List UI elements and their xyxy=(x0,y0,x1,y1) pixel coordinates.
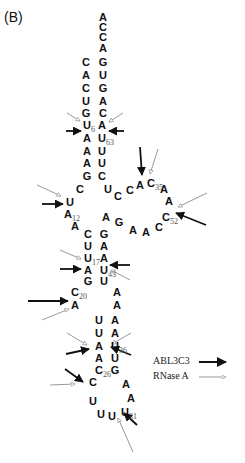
nucleotide: A xyxy=(160,184,168,195)
nucleotide: U xyxy=(100,276,108,287)
nucleotide: U xyxy=(84,253,92,264)
abl3c3-cleavage-arrow-icon xyxy=(176,213,206,225)
nucleotide-index: 63 xyxy=(106,139,114,147)
nucleotide: C xyxy=(71,287,79,298)
nucleotide: C xyxy=(99,108,107,119)
nucleotide: U xyxy=(98,158,106,169)
nucleotide: C xyxy=(126,185,134,196)
nucleotide: U xyxy=(82,96,90,107)
nucleotide: A xyxy=(100,241,108,252)
nucleotide: C xyxy=(95,365,103,376)
nucleotide-index: 43 xyxy=(108,271,116,279)
rnase-a-cleavage-arrow-icon xyxy=(42,309,69,320)
nucleotide: A xyxy=(98,120,106,131)
rnase-a-cleavage-arrow-icon xyxy=(178,193,207,207)
nucleotide: G xyxy=(82,108,91,119)
nucleotide: A xyxy=(165,196,173,207)
nucleotide: A xyxy=(82,70,90,81)
cleavage-arrows-layer xyxy=(0,0,245,463)
nucleotide: C xyxy=(162,212,170,223)
nucleotide: U xyxy=(95,315,103,326)
nucleotide-index: 20 xyxy=(79,293,87,301)
nucleotide: A xyxy=(71,221,79,232)
nucleotide: G xyxy=(111,365,120,376)
nucleotide: U xyxy=(83,120,91,131)
nucleotide: A xyxy=(113,287,121,298)
nucleotide: A xyxy=(102,212,110,223)
nucleotide: G xyxy=(99,57,108,68)
nucleotide: G xyxy=(83,171,92,182)
rnase-a-cleavage-arrow-icon xyxy=(109,113,123,122)
nucleotide: G xyxy=(100,229,109,240)
figure-panel: (B) ACCAGUGACCACUGU6AAAGAU63UUCCUCCAC35A… xyxy=(0,0,245,463)
nucleotide: A xyxy=(71,300,79,311)
legend-abl3c3-label: ABL3C3 xyxy=(153,355,190,366)
nucleotide: U xyxy=(111,353,119,364)
abl3c3-cleavage-arrow-icon xyxy=(66,349,89,354)
nucleotide: C xyxy=(89,377,97,388)
nucleotide: A xyxy=(99,96,107,107)
nucleotide: A xyxy=(83,158,91,169)
nucleotide: C xyxy=(155,222,163,233)
nucleotide: C xyxy=(147,178,155,189)
nucleotide: A xyxy=(127,393,135,404)
nucleotide: A xyxy=(122,379,130,390)
nucleotide: A xyxy=(111,315,119,326)
nucleotide: A xyxy=(83,133,91,144)
nucleotide-index: 17 xyxy=(92,259,100,267)
nucleotide: A xyxy=(99,43,107,54)
nucleotide: A xyxy=(111,328,119,339)
abl3c3-cleavage-arrow-icon xyxy=(140,147,142,175)
nucleotide: G xyxy=(115,217,124,228)
nucleotide: A xyxy=(100,253,108,264)
nucleotide: C xyxy=(76,184,84,195)
rnase-a-cleavage-arrow-icon xyxy=(50,384,75,385)
nucleotide: U xyxy=(121,407,129,418)
nucleotide: A xyxy=(129,225,137,236)
nucleotide: U xyxy=(98,146,106,157)
rnase-a-cleavage-arrow-icon xyxy=(67,333,87,345)
abl3c3-cleavage-arrow-icon xyxy=(65,369,83,382)
nucleotide: A xyxy=(113,300,121,311)
nucleotide: A xyxy=(142,227,150,238)
legend-rnase-a-label: RNase A xyxy=(153,370,189,381)
nucleotide: U xyxy=(97,409,105,420)
nucleotide: A xyxy=(136,180,144,191)
nucleotide: U xyxy=(95,328,103,339)
nucleotide: A xyxy=(95,353,103,364)
nucleotide: U xyxy=(99,70,107,81)
rnase-a-cleavage-arrow-icon xyxy=(150,149,158,174)
nucleotide: U xyxy=(98,133,106,144)
nucleotide: A xyxy=(95,341,103,352)
nucleotide: C xyxy=(98,171,106,182)
nucleotide: A xyxy=(64,209,72,220)
nucleotide: A xyxy=(83,146,91,157)
nucleotide: U xyxy=(66,197,74,208)
rnase-a-cleavage-arrow-icon xyxy=(37,185,61,196)
nucleotide: C xyxy=(84,229,92,240)
nucleotide: U xyxy=(108,411,116,422)
nucleotide: G xyxy=(84,276,93,287)
nucleotide: C xyxy=(82,57,90,68)
nucleotide-index: 52 xyxy=(170,218,178,226)
arrow-group xyxy=(28,113,207,452)
nucleotide: C xyxy=(114,191,122,202)
nucleotide: U xyxy=(89,396,97,407)
nucleotide-index: 31 xyxy=(129,413,137,421)
nucleotide: U xyxy=(84,241,92,252)
nucleotide: U xyxy=(111,341,119,352)
nucleotide-index: 36 xyxy=(119,347,127,355)
rnase-a-cleavage-arrow-icon xyxy=(67,113,80,121)
nucleotide: C xyxy=(82,83,90,94)
rnase-a-cleavage-arrow-icon xyxy=(60,250,81,259)
nucleotide: U xyxy=(104,184,112,195)
nucleotide-index: 6 xyxy=(91,126,95,134)
rnase-a-cleavage-arrow-icon xyxy=(118,418,133,452)
nucleotide: G xyxy=(99,83,108,94)
